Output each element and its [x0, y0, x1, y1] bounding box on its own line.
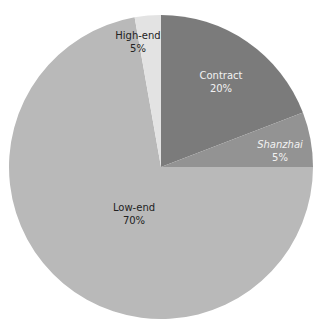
pie-chart: [0, 0, 323, 330]
slice-label-shanzhai: Shanzhai 5%: [257, 138, 303, 164]
slice-percent: 5%: [115, 42, 160, 55]
slice-name: Contract: [199, 69, 242, 82]
slice-name: Low-end: [113, 201, 155, 214]
slice-name: Shanzhai: [257, 138, 303, 151]
slice-label-low-end: Low-end 70%: [113, 201, 155, 227]
slice-percent: 70%: [113, 214, 155, 227]
slice-percent: 5%: [257, 151, 303, 164]
slice-label-contract: Contract 20%: [199, 69, 242, 95]
slice-name: High-end: [115, 29, 160, 42]
slice-percent: 20%: [199, 82, 242, 95]
slice-label-high-end: High-end 5%: [115, 29, 160, 55]
